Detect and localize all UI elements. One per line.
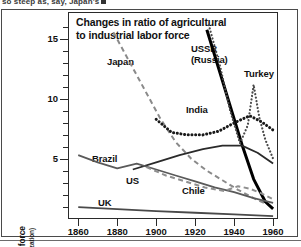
series-line-uk — [78, 207, 273, 216]
series-line-india — [156, 116, 273, 135]
figure-container: so steep as, say, Japan's Agricultrual l… — [0, 0, 301, 247]
series-lines — [0, 0, 301, 247]
series-line-brazil — [133, 146, 273, 170]
series-line-us — [78, 155, 273, 203]
